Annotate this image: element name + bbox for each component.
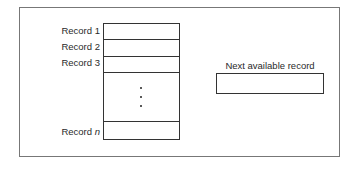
next-available-label: Next available record bbox=[210, 60, 330, 72]
ellipsis-dot bbox=[140, 105, 142, 107]
record-1-label: Record 1 bbox=[30, 25, 100, 37]
record-n-variable: n bbox=[95, 126, 100, 137]
row-divider bbox=[103, 39, 180, 40]
ellipsis-dot bbox=[140, 96, 142, 98]
record-array bbox=[103, 23, 180, 140]
record-3-label: Record 3 bbox=[30, 57, 100, 69]
record-2-label: Record 2 bbox=[30, 41, 100, 53]
ellipsis-dot bbox=[140, 87, 142, 89]
row-divider bbox=[103, 72, 180, 73]
record-n-label: Record n bbox=[30, 126, 100, 138]
row-divider bbox=[103, 56, 180, 57]
record-n-prefix: Record bbox=[61, 126, 94, 137]
next-available-record-box bbox=[216, 73, 324, 94]
row-divider bbox=[103, 121, 180, 122]
